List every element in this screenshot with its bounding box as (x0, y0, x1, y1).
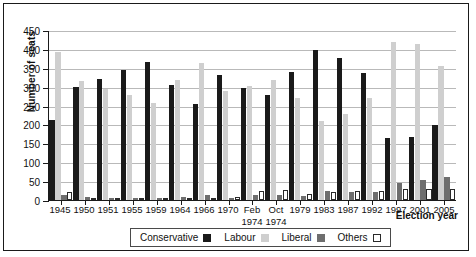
bar-others (426, 189, 431, 200)
bar-liberal (420, 180, 425, 200)
bar-labour (415, 44, 420, 200)
bar-group (169, 31, 193, 200)
bar-others (91, 198, 96, 200)
bar-others (403, 189, 408, 200)
bar-liberal (85, 197, 90, 200)
bar-others (450, 189, 455, 200)
y-axis-tick-label: 300 (23, 82, 40, 93)
bar-labour (295, 98, 300, 200)
legend-label: Others (338, 232, 368, 243)
bar-liberal (61, 195, 66, 200)
bar-others (259, 191, 264, 200)
bar-group (49, 31, 73, 200)
chart-legend: ConservativeLabourLiberalOthers (130, 228, 391, 247)
bar-conservative (265, 95, 270, 200)
bar-group (97, 31, 121, 200)
bar-liberal (373, 192, 378, 200)
bar-conservative (337, 58, 342, 200)
bar-conservative (361, 73, 366, 200)
chart-frame: Number of seats 450400350300250200150100… (3, 3, 469, 251)
bar-others (379, 191, 384, 200)
bar-group (288, 31, 312, 200)
bar-conservative (385, 138, 390, 200)
bar-liberal (301, 196, 306, 200)
bar-conservative (169, 85, 174, 200)
bar-labour (319, 121, 324, 200)
bar-labour (247, 86, 252, 200)
bar-others (67, 192, 72, 200)
y-axis-tick-label: 50 (29, 177, 40, 188)
bar-liberal (277, 195, 282, 200)
bar-conservative (313, 50, 318, 200)
bar-others (355, 191, 360, 200)
bar-conservative (289, 72, 294, 200)
bar-conservative (121, 70, 126, 200)
bar-labour (438, 66, 443, 200)
bar-others (331, 192, 336, 200)
bar-others (115, 198, 120, 200)
y-axis-tick-label: 150 (23, 139, 40, 150)
bar-liberal (133, 198, 138, 200)
bar-group (121, 31, 145, 200)
legend-label: Labour (224, 232, 255, 243)
bar-conservative (432, 125, 437, 200)
x-axis-label: 1945 (48, 204, 72, 238)
bar-others (235, 197, 240, 200)
bar-others (139, 198, 144, 200)
bar-labour (199, 63, 204, 201)
bar-labour (175, 80, 180, 200)
bar-conservative (49, 120, 54, 200)
bar-group (384, 31, 408, 200)
bar-groups (49, 31, 456, 200)
bar-others (211, 198, 216, 200)
bar-labour (127, 95, 132, 200)
x-axis-label: 1950 (72, 204, 96, 238)
y-axis-tick-label: 450 (23, 26, 40, 37)
bar-conservative (97, 79, 102, 200)
legend-item[interactable]: Others (338, 232, 381, 243)
bar-group (241, 31, 265, 200)
bar-labour (151, 103, 156, 200)
bar-labour (367, 98, 372, 200)
bar-others (307, 194, 312, 200)
bar-others (163, 198, 168, 200)
bar-group (312, 31, 336, 200)
bar-group (432, 31, 456, 200)
bar-conservative (409, 137, 414, 200)
bar-conservative (193, 104, 198, 200)
bar-liberal (157, 198, 162, 200)
x-axis-label: 1951 (96, 204, 120, 238)
bar-others (283, 190, 288, 200)
bar-group (360, 31, 384, 200)
bar-conservative (73, 87, 78, 200)
bar-group (145, 31, 169, 200)
bar-liberal (181, 197, 186, 200)
bar-group (336, 31, 360, 200)
conservative-swatch (203, 234, 211, 242)
y-axis-tick-label: 350 (23, 63, 40, 74)
bar-group (217, 31, 241, 200)
labour-swatch (261, 234, 269, 242)
bar-labour (103, 89, 108, 200)
bar-labour (223, 91, 228, 200)
legend-item[interactable]: Conservative (140, 232, 211, 243)
y-axis-tick-label: 400 (23, 44, 40, 55)
bar-liberal (349, 192, 354, 200)
bar-labour (79, 81, 84, 200)
legend-item[interactable]: Labour (224, 232, 268, 243)
bar-liberal (109, 198, 114, 200)
bar-others (187, 198, 192, 200)
bar-conservative (217, 75, 222, 200)
bar-group (408, 31, 432, 200)
bar-liberal (205, 195, 210, 200)
y-axis-tick-label: 100 (23, 158, 40, 169)
bar-group (264, 31, 288, 200)
bar-liberal (444, 177, 449, 200)
bar-labour (271, 80, 276, 201)
y-axis-tick-label: 250 (23, 101, 40, 112)
y-axis-tick-label: 0 (34, 196, 40, 207)
plot-area: 450400350300250200150100500 (48, 31, 456, 201)
bar-labour (391, 42, 396, 200)
legend-item[interactable]: Liberal (282, 232, 325, 243)
legend-label: Liberal (282, 232, 312, 243)
